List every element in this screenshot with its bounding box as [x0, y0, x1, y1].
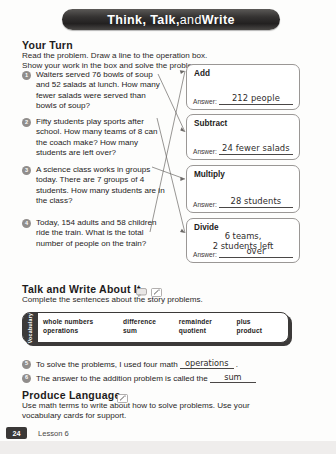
banner-title: Think, Talk, and Write [62, 9, 280, 30]
vocabulary-column: plus product [236, 318, 283, 334]
answer-label: Answer: [193, 251, 217, 259]
answer-row: Answer: over [193, 239, 293, 258]
answer-value: over [246, 246, 265, 256]
problem-text: Fifty students play sports after school.… [36, 117, 167, 159]
vocabulary-term: operations [43, 327, 123, 334]
problem-item: 1 Waiters served 76 bowls of soup and 52… [22, 70, 167, 112]
vocabulary-term: remainder [179, 318, 237, 325]
talk-write-instructions: Complete the sentences about the story p… [22, 295, 252, 305]
sentence-item: 6 The answer to the addition problem is … [22, 372, 258, 383]
vocabulary-term: sum [123, 327, 179, 334]
vocabulary-term: difference [123, 318, 179, 325]
vocabulary-box-body: Vocabulary whole numbers operations diff… [22, 312, 289, 343]
vocabulary-column: remainder quotient [179, 318, 237, 334]
answer-label: Answer: [193, 148, 217, 156]
problem-number: 3 [22, 166, 31, 175]
banner-title-part3: Write [202, 13, 235, 27]
operation-box-divide[interactable]: Divide 6 teams, 2 students left Answer: … [186, 218, 300, 263]
sentence-number: 5 [22, 360, 31, 369]
answer-row: Answer: 212 people [193, 86, 293, 105]
problem-item: 2 Fifty students play sports after schoo… [22, 117, 167, 159]
sentence-number: 6 [22, 374, 31, 383]
answer-value: 28 students [231, 196, 282, 206]
vocabulary-tab-label: Vocabulary [28, 312, 34, 343]
answer-line[interactable]: 212 people [219, 86, 293, 105]
problem-number: 2 [22, 118, 31, 127]
sentence-text-before: The answer to the addition problem is ca… [36, 374, 208, 383]
answer-label: Answer: [193, 201, 217, 209]
talk-write-heading: Talk and Write About It [22, 283, 141, 295]
answer-line[interactable]: 24 fewer salads [219, 136, 293, 155]
your-turn-heading: Your Turn [22, 39, 73, 51]
vocabulary-term: whole numbers [43, 318, 123, 325]
produce-language-instructions: Use math terms to write about how to sol… [22, 401, 258, 421]
vocabulary-box: Vocabulary whole numbers operations diff… [22, 312, 292, 346]
worksheet-page: Think, Talk, and Write Your Turn Read th… [0, 0, 336, 454]
answer-row: Answer: 28 students [193, 189, 293, 208]
vocabulary-term: product [236, 327, 283, 334]
answer-line[interactable]: over [219, 239, 293, 258]
sentence-text-before: To solve the problems, I used four math [36, 360, 178, 369]
banner-title-part1: Think, Talk, [107, 13, 180, 27]
vocabulary-term: quotient [179, 327, 237, 334]
answer-value: 212 people [232, 93, 280, 103]
vocabulary-columns: whole numbers operations difference sum … [43, 318, 283, 334]
answer-line[interactable]: 28 students [219, 189, 293, 208]
sentence-blank[interactable]: sum [210, 372, 256, 383]
page-number: 24 [6, 427, 27, 439]
vocabulary-column: whole numbers operations [43, 318, 123, 334]
vocabulary-tab: Vocabulary [23, 313, 38, 342]
lesson-label: Lesson 6 [38, 429, 69, 438]
operation-box-multiply[interactable]: Multiply Answer: 28 students [186, 165, 300, 213]
operation-title: Add [194, 69, 210, 78]
problem-number: 4 [22, 219, 31, 228]
problem-text: Today, 154 adults and 58 children ride t… [36, 218, 167, 249]
answer-label: Answer: [193, 98, 217, 106]
answer-value: 24 fewer salads [222, 143, 290, 153]
answer-row: Answer: 24 fewer salads [193, 136, 293, 155]
sentence-item: 5 To solve the problems, I used four mat… [22, 358, 238, 369]
problem-text: Waiters served 76 bowls of soup and 52 s… [36, 70, 167, 112]
section-banner: Think, Talk, and Write [62, 9, 280, 30]
problem-text: A science class works in groups today. T… [36, 165, 167, 207]
vocabulary-term: plus [236, 318, 283, 325]
banner-title-part2: and [180, 13, 202, 27]
sentence-text-after: . [236, 360, 238, 369]
problem-number: 1 [22, 71, 31, 80]
sentence-blank[interactable]: operations [180, 358, 234, 369]
produce-language-heading: Produce Language [22, 389, 121, 401]
footer-bar [0, 441, 336, 454]
operation-title: Multiply [194, 170, 225, 179]
operation-box-add[interactable]: Add Answer: 212 people [186, 64, 300, 110]
operation-title: Subtract [194, 119, 227, 128]
problem-item: 3 A science class works in groups today.… [22, 165, 167, 207]
vocabulary-column: difference sum [123, 318, 179, 334]
problem-item: 4 Today, 154 adults and 58 children ride… [22, 218, 167, 249]
operation-box-subtract[interactable]: Subtract Answer: 24 fewer salads [186, 114, 300, 160]
